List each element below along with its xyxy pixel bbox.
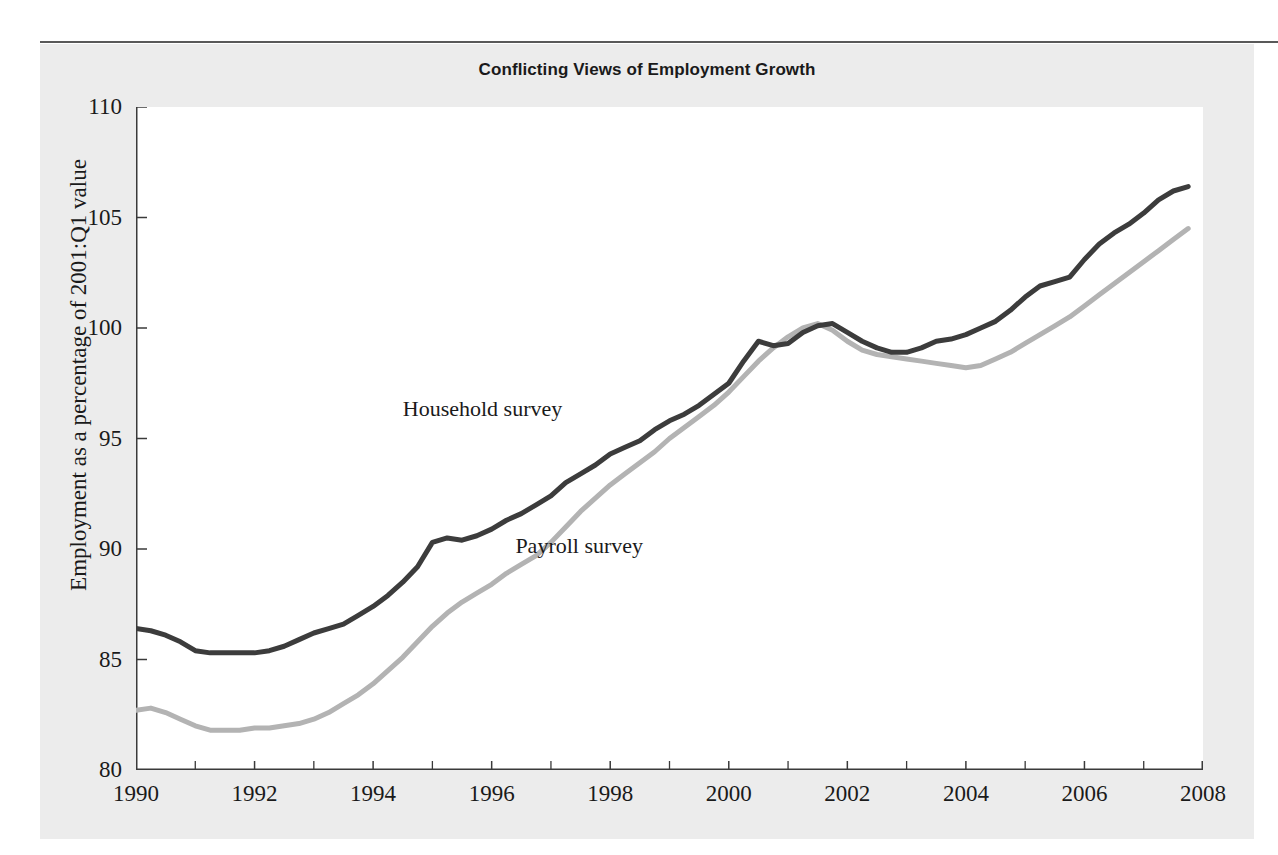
y-axis-tick-label: 90 xyxy=(64,537,122,560)
x-axis-tick-label: 1994 xyxy=(318,782,428,805)
plot-area: 80859095100105110 1990199219941996199820… xyxy=(136,107,1203,770)
y-axis-tick-label: 80 xyxy=(64,758,122,781)
y-axis-tick-label: 105 xyxy=(64,206,122,229)
series-line-payroll-survey xyxy=(136,229,1188,731)
x-axis-tick-label: 1992 xyxy=(200,782,310,805)
figure-panel: Conflicting Views of Employment Growth E… xyxy=(40,44,1254,839)
y-axis-title: Employment as a percentage of 2001:Q1 va… xyxy=(66,55,92,695)
x-axis-tick-label: 2004 xyxy=(911,782,1021,805)
header-rule xyxy=(40,41,1278,43)
y-axis-ticks xyxy=(136,107,147,770)
y-axis-tick-label: 95 xyxy=(64,427,122,450)
x-axis-tick-label: 2008 xyxy=(1148,782,1258,805)
x-axis-tick-label: 2002 xyxy=(792,782,902,805)
x-axis-tick-label: 1990 xyxy=(81,782,191,805)
x-axis-tick-label: 2006 xyxy=(1029,782,1139,805)
y-axis-tick-label: 100 xyxy=(64,316,122,339)
x-axis-tick-label: 1998 xyxy=(555,782,665,805)
chart-title: Conflicting Views of Employment Growth xyxy=(40,60,1254,80)
y-axis-tick-label: 85 xyxy=(64,648,122,671)
x-axis-tick-label: 1996 xyxy=(437,782,547,805)
annotation-household-survey: Household survey xyxy=(403,396,562,422)
x-axis-tick-label: 2000 xyxy=(674,782,784,805)
annotation-payroll-survey: Payroll survey xyxy=(515,533,643,559)
chart-canvas xyxy=(136,107,1203,770)
y-axis-tick-label: 110 xyxy=(64,95,122,118)
series-line-household-survey xyxy=(136,187,1188,653)
data-series-group xyxy=(136,187,1188,731)
